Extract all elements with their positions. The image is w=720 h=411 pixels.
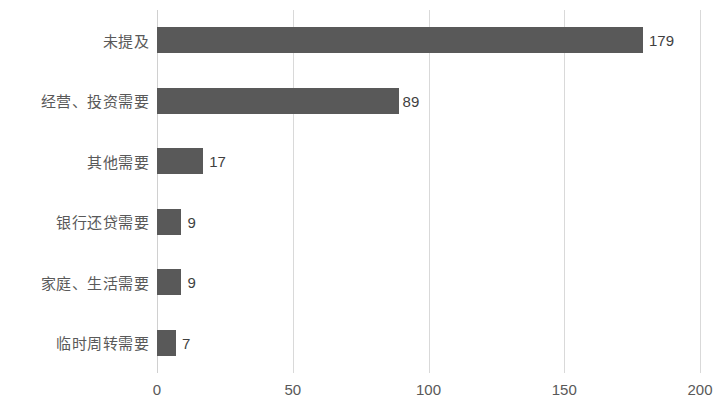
category-label: 银行还贷需要 [56, 211, 149, 232]
category-label: 经营、投资需要 [41, 90, 150, 111]
bar-value-label: 17 [209, 154, 226, 169]
value-axis-labels: 0 50 100 150 200 [157, 381, 700, 403]
x-tick-label: 100 [416, 381, 441, 399]
bar [157, 148, 203, 174]
category-label-row: 银行还贷需要 [0, 192, 149, 253]
category-label-row: 家庭、生活需要 [0, 252, 149, 313]
x-tick-label: 200 [687, 381, 712, 399]
x-tick-label: 0 [153, 381, 161, 399]
bar-value-label: 179 [649, 33, 674, 48]
bar [157, 88, 399, 114]
category-label: 未提及 [103, 30, 150, 51]
bar [157, 209, 181, 235]
category-label-row: 经营、投资需要 [0, 71, 149, 132]
bar-row: 89 [157, 71, 700, 132]
category-label: 其他需要 [87, 151, 149, 172]
x-tick-label: 50 [284, 381, 301, 399]
bar-row: 179 [157, 10, 700, 71]
category-label-row: 临时周转需要 [0, 313, 149, 374]
bar [157, 330, 176, 356]
bar-value-label: 7 [182, 335, 190, 350]
plot-area: 179 89 17 9 9 7 [157, 10, 700, 373]
category-label-row: 其他需要 [0, 131, 149, 192]
category-label: 家庭、生活需要 [41, 272, 150, 293]
category-label: 临时周转需要 [56, 332, 149, 353]
bar-chart: 未提及 经营、投资需要 其他需要 银行还贷需要 家庭、生活需要 临时周转需要 1… [0, 0, 720, 411]
category-label-row: 未提及 [0, 10, 149, 71]
bar-value-label: 9 [187, 214, 195, 229]
bar-series: 179 89 17 9 9 7 [157, 10, 700, 373]
bar-row: 9 [157, 252, 700, 313]
gridline-200 [700, 10, 701, 373]
bar-row: 17 [157, 131, 700, 192]
bar-value-label: 9 [187, 275, 195, 290]
bar [157, 27, 643, 53]
bar-row: 9 [157, 192, 700, 253]
x-tick-label: 150 [552, 381, 577, 399]
bar-row: 7 [157, 313, 700, 374]
bar-value-label: 89 [403, 93, 420, 108]
category-axis-labels: 未提及 经营、投资需要 其他需要 银行还贷需要 家庭、生活需要 临时周转需要 [0, 10, 149, 373]
bar [157, 269, 181, 295]
